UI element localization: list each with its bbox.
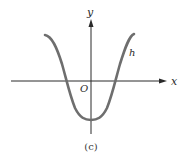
y-axis-label: y [86, 6, 94, 19]
x-axis [11, 79, 167, 84]
function-graph: y x O h (c) [0, 0, 183, 159]
curve-label: h [129, 47, 135, 58]
curve-h [45, 34, 134, 120]
figure-caption: (c) [84, 141, 98, 152]
x-axis-arrow-icon [159, 79, 167, 84]
y-axis [89, 19, 94, 134]
origin-label: O [80, 83, 88, 94]
y-axis-arrow-icon [89, 19, 94, 27]
x-axis-label: x [171, 75, 178, 88]
